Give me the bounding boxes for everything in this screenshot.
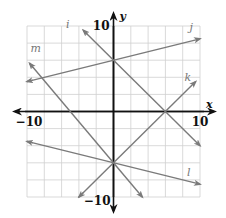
- line-k-start-arrow: [79, 193, 83, 197]
- x-tick-min: −10: [16, 115, 43, 129]
- axes: [15, 14, 214, 211]
- line-m: [30, 63, 143, 197]
- x-tick-max: 10: [192, 115, 209, 129]
- y-tick-max: 10: [93, 19, 110, 33]
- line-label-i: i: [66, 18, 70, 31]
- labels: −101010−10xyijklm: [16, 10, 213, 208]
- line-label-l: l: [187, 166, 191, 179]
- line-l-start-arrow: [27, 141, 33, 142]
- x-axis-label: x: [205, 98, 213, 111]
- y-tick-min: −10: [84, 194, 111, 208]
- line-label-j: j: [187, 21, 194, 34]
- line-label-m: m: [30, 42, 40, 55]
- y-axis-label: y: [119, 10, 128, 23]
- line-m-start-arrow: [30, 63, 34, 68]
- line-i-start-arrow: [83, 30, 87, 34]
- line-j-start-arrow: [27, 80, 33, 81]
- line-label-k: k: [184, 71, 191, 84]
- coordinate-plane: −101010−10xyijklm: [0, 0, 226, 218]
